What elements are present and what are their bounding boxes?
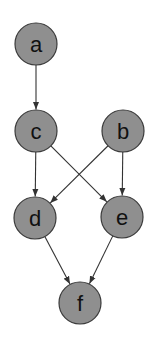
edge-d-to-f <box>45 237 70 284</box>
node-label: e <box>116 205 128 230</box>
arrow-icon <box>89 236 112 284</box>
node-d: d <box>14 197 56 239</box>
edge-e-to-f <box>89 236 112 284</box>
node-c: c <box>15 110 57 152</box>
node-label: a <box>30 32 43 57</box>
edge-b-to-e <box>122 152 123 196</box>
edges-layer <box>35 65 123 284</box>
arrow-icon <box>45 237 70 284</box>
arrow-icon <box>122 152 123 196</box>
node-label: c <box>31 119 42 144</box>
node-e: e <box>101 196 143 238</box>
node-label: d <box>29 206 41 231</box>
arrow-icon <box>35 152 36 197</box>
node-f: f <box>59 282 101 324</box>
graph-diagram: acbdef <box>0 0 154 339</box>
node-label: f <box>77 291 84 316</box>
edge-c-to-d <box>35 152 36 197</box>
node-b: b <box>102 110 144 152</box>
node-label: b <box>117 119 129 144</box>
node-a: a <box>15 23 57 65</box>
